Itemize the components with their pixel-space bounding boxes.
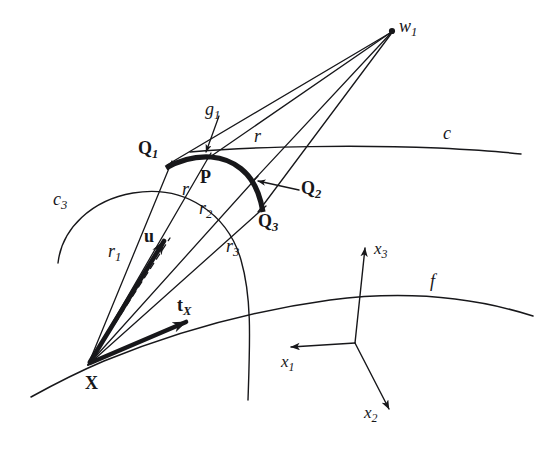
label-g1: g1 [205, 100, 220, 122]
label-tX: tX [177, 296, 191, 317]
label-c3: c3 [53, 190, 67, 212]
line-Q2-to-w1 [252, 33, 391, 182]
label-r2: r2 [199, 199, 212, 221]
ray-r3-X-to-Q3 [88, 206, 266, 365]
ray-r2-X-to-Q2 [88, 176, 258, 365]
label-r1: r1 [108, 242, 121, 264]
label-r3: r3 [226, 237, 239, 259]
axis-x1 [291, 343, 355, 347]
label-r-upper: r [254, 127, 261, 145]
axis-x2 [355, 343, 389, 409]
label-r: r [182, 180, 189, 198]
label-x1: x1 [281, 353, 295, 374]
label-x3: x3 [374, 240, 388, 261]
label-Q1: Q1 [138, 139, 158, 161]
point-w1-dot [389, 28, 395, 34]
label-X: X [85, 374, 98, 392]
label-Q2: Q2 [301, 179, 321, 201]
geometry-figure: w1 g1 c c3 f Q1 Q2 Q3 P X u tX r r r1 r2… [0, 0, 555, 463]
label-u: u [144, 227, 154, 245]
label-w1: w1 [399, 17, 417, 39]
vector-u [90, 241, 164, 362]
label-P: P [200, 168, 211, 186]
label-c: c [443, 124, 451, 142]
curve-c [190, 146, 521, 154]
line-P-to-w1 [207, 33, 390, 159]
label-f: f [430, 272, 435, 290]
label-Q3: Q3 [258, 212, 278, 234]
line-Q1-to-w1 [167, 33, 390, 165]
axis-x3 [355, 248, 365, 343]
label-x2: x2 [364, 404, 378, 425]
leader-Q2 [258, 181, 299, 190]
thick-arc-Q1-P-Q3 [166, 157, 263, 212]
curve-f [31, 296, 533, 397]
